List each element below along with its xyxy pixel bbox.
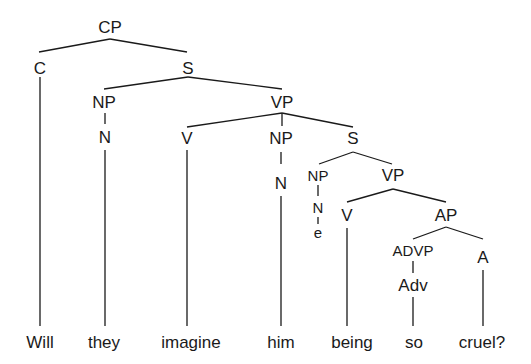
node-advp: ADVP (393, 243, 434, 258)
node-adv: Adv (398, 277, 427, 294)
node-vp-main: VP (271, 94, 294, 111)
node-s-main: S (182, 60, 193, 77)
word-imagine: imagine (161, 334, 221, 351)
node-v-main: V (181, 130, 192, 147)
node-ap: AP (435, 207, 458, 224)
word-him: him (267, 334, 294, 351)
word-so: so (405, 334, 423, 351)
node-a: A (477, 249, 488, 266)
node-np-subject: NP (92, 94, 116, 111)
word-will: Will (26, 334, 53, 351)
node-np-object: NP (269, 130, 293, 147)
node-cp: CP (98, 19, 122, 36)
node-n-empty: N (313, 200, 324, 215)
node-n-subject: N (99, 129, 111, 146)
tree-branches (0, 0, 531, 364)
word-being: being (331, 334, 373, 351)
word-they: they (88, 334, 120, 351)
node-empty-e: e (314, 225, 322, 240)
node-n-object: N (275, 175, 287, 192)
node-s-embedded: S (347, 130, 358, 147)
node-v-embedded: V (341, 207, 352, 224)
node-vp-embedded: VP (382, 167, 405, 184)
node-np-empty: NP (308, 168, 329, 183)
node-c: C (34, 60, 46, 77)
word-cruel: cruel? (459, 334, 505, 351)
